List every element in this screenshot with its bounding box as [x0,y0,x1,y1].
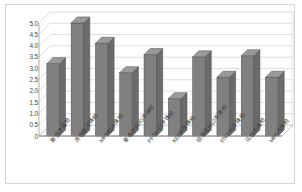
y-axis-tick-label: 4.5 [16,31,38,38]
y-axis-tick-label: 3.5 [16,53,38,60]
y-axis-tick-labels: 5.04.54.03.53.02.52.01.51.00.50 [14,5,38,185]
y-axis-tick-label: 1.0 [16,110,38,117]
bar-column [241,50,260,136]
bar-column [193,51,212,136]
bar-column [120,67,139,136]
chart-plot-area: 5.04.54.03.53.02.52.01.51.00.50 斯登冲锋枪汤普森… [6,5,296,185]
y-axis-tick-label: 3.0 [16,65,38,72]
y-axis-tick-label: 2.5 [16,76,38,83]
y-axis-tick-label: 0 [16,133,38,140]
bar-column [47,58,66,136]
bar-column [144,49,163,136]
y-axis-tick-label: 1.5 [16,99,38,106]
bar-column [71,17,90,136]
bar-chart-graphic [6,5,296,185]
bar-column [168,93,187,136]
y-axis-tick-label: 5.0 [16,20,38,27]
y-axis-tick-label: 4.0 [16,42,38,49]
y-axis-tick-label: 2.0 [16,87,38,94]
chart-frame: 5.04.54.03.53.02.52.01.51.00.50 斯登冲锋枪汤普森… [5,4,295,184]
bar-column [95,37,114,136]
y-axis-tick-label: 0.5 [16,121,38,128]
bar-column [266,71,285,136]
bar-column [217,71,236,136]
